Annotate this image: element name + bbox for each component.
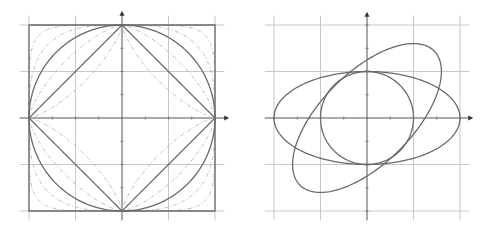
right-panel-ellipses (265, 12, 474, 221)
axes (265, 12, 474, 221)
left-panel-lp-unit-balls (20, 11, 229, 220)
axes (20, 11, 229, 220)
x-axis-arrow-icon (224, 116, 229, 121)
y-axis-arrow-icon (120, 11, 125, 16)
y-axis-arrow-icon (365, 12, 370, 17)
x-axis-arrow-icon (468, 116, 473, 121)
figure-canvas (0, 0, 487, 230)
